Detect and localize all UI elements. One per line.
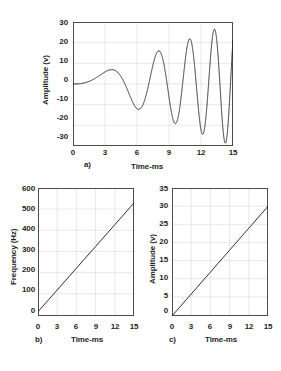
panel-b-label: b) (35, 335, 42, 344)
panel-a-svg (73, 22, 233, 146)
panel-b-ytick-600: 600 (11, 184, 35, 193)
panel-c-x-axis-title: Time-ms (205, 335, 237, 344)
panel-c-xtick-15: 15 (260, 322, 276, 331)
panel-c-ytick-0: 0 (150, 306, 168, 315)
panel-b-ytick-0: 0 (11, 306, 35, 315)
panel-b-y-axis-title: Frequency (Hz) (9, 229, 18, 285)
panel-c-ytick-35: 35 (150, 184, 168, 193)
panel-a-xtick-3: 3 (96, 148, 114, 157)
panel-b-frequency-ramp: Frequency (Hz) 600 500 400 300 200 100 0 (0, 183, 145, 371)
panel-a-label: a) (84, 160, 91, 169)
panel-b-frame (39, 189, 134, 316)
panel-c-svg (172, 188, 268, 316)
panel-b-ytick-200: 200 (11, 265, 35, 274)
panel-b-xtick-6: 6 (68, 322, 84, 331)
panel-a-ytick-n30: -30 (44, 132, 68, 141)
panel-a-xtick-15: 15 (224, 148, 242, 157)
panel-a-xtick-0: 0 (64, 148, 82, 157)
panel-a-ytick-30: 30 (46, 18, 68, 27)
panel-a-xtick-9: 9 (160, 148, 178, 157)
panel-a-ytick-20: 20 (46, 37, 68, 46)
panel-b-x-axis-title: Time-ms (71, 335, 103, 344)
panel-a-ytick-n10: -10 (44, 94, 68, 103)
panel-b-ytick-300: 300 (11, 245, 35, 254)
panel-b-svg (38, 188, 134, 316)
panel-b-xtick-9: 9 (88, 322, 104, 331)
panel-b-xtick-12: 12 (107, 322, 123, 331)
panel-c-xtick-12: 12 (241, 322, 257, 331)
panel-b-ytick-500: 500 (11, 204, 35, 213)
panel-a-x-axis-title: Time-ms (131, 162, 163, 171)
panel-c-ytick-30: 30 (150, 201, 168, 210)
panel-a-xtick-12: 12 (192, 148, 210, 157)
panel-c-ytick-15: 15 (150, 255, 168, 264)
panel-a-plot-area (73, 22, 233, 146)
panel-b-ytick-100: 100 (11, 285, 35, 294)
panel-a-xtick-6: 6 (128, 148, 146, 157)
panel-c-ytick-5: 5 (150, 291, 168, 300)
panel-b-ytick-400: 400 (11, 224, 35, 233)
panel-c-xtick-6: 6 (202, 322, 218, 331)
panel-a-ytick-n20: -20 (44, 113, 68, 122)
panel-a-ytick-0: 0 (46, 75, 68, 84)
panel-c-ytick-20: 20 (150, 237, 168, 246)
panel-c-xtick-0: 0 (164, 322, 180, 331)
panel-a-chirp-waveform: Amplitude (v) 30 20 10 0 -10 -20 -30 (0, 0, 281, 185)
panel-c-plot-area (172, 188, 268, 316)
panel-b-plot-area (38, 188, 134, 316)
panel-c-xtick-9: 9 (222, 322, 238, 331)
panel-c-frame (173, 189, 268, 316)
panel-c-xtick-3: 3 (183, 322, 199, 331)
panel-c-ytick-25: 25 (150, 219, 168, 228)
panel-a-ytick-10: 10 (46, 56, 68, 65)
panel-c-amplitude-ramp: Amplitude (v) 35 30 25 20 15 10 5 0 (140, 183, 281, 371)
panel-c-ytick-10: 10 (150, 273, 168, 282)
panel-b-xtick-3: 3 (49, 322, 65, 331)
panel-b-xtick-0: 0 (30, 322, 46, 331)
panel-c-label: c) (169, 335, 176, 344)
chirp-signal-figure: Amplitude (v) 30 20 10 0 -10 -20 -30 (0, 0, 281, 371)
